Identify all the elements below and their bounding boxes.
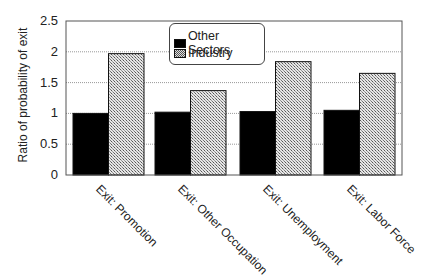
bar <box>324 110 360 175</box>
legend-swatch-icon <box>174 49 186 58</box>
bar <box>73 113 109 175</box>
legend: Other Sectors Industry <box>169 23 265 65</box>
bar-chart: Ratio of probability of exit 00.511.522.… <box>0 0 445 280</box>
bar <box>191 91 227 175</box>
bar <box>276 62 312 175</box>
bar <box>240 112 276 175</box>
legend-item-industry: Industry <box>174 46 232 60</box>
bar <box>109 54 145 175</box>
bar <box>155 112 191 175</box>
legend-label: Industry <box>188 46 232 60</box>
bar <box>360 73 396 175</box>
